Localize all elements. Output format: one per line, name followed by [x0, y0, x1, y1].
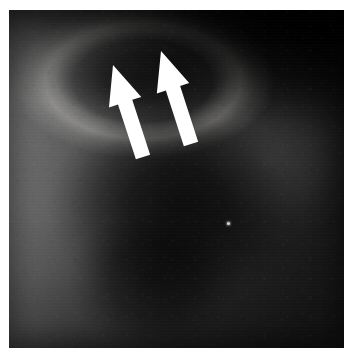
radiograph-image [9, 10, 344, 348]
figure-root [0, 0, 352, 360]
arrow-left-shape [109, 65, 150, 159]
arrow-right-shape [157, 51, 198, 146]
annotation-arrow-group [109, 51, 198, 159]
annotation-svg [9, 10, 344, 348]
annotation-layer [9, 10, 344, 348]
